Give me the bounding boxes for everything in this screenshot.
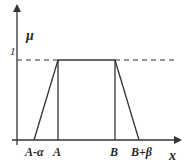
falling-edge: [115, 60, 139, 140]
x-tick-label-b-plus-beta: B+β: [130, 145, 153, 159]
rising-edge: [34, 60, 58, 140]
y-axis-label: μ: [25, 28, 34, 43]
y-tick-label-one: 1: [10, 45, 16, 57]
x-tick-label-a-minus-alpha: A-α: [24, 145, 44, 159]
x-tick-label-b: B: [109, 145, 118, 159]
x-tick-label-a: A: [52, 145, 61, 159]
membership-function-diagram: μ 1 x A-α A B B+β: [0, 0, 190, 165]
x-axis-label: x: [168, 148, 176, 163]
